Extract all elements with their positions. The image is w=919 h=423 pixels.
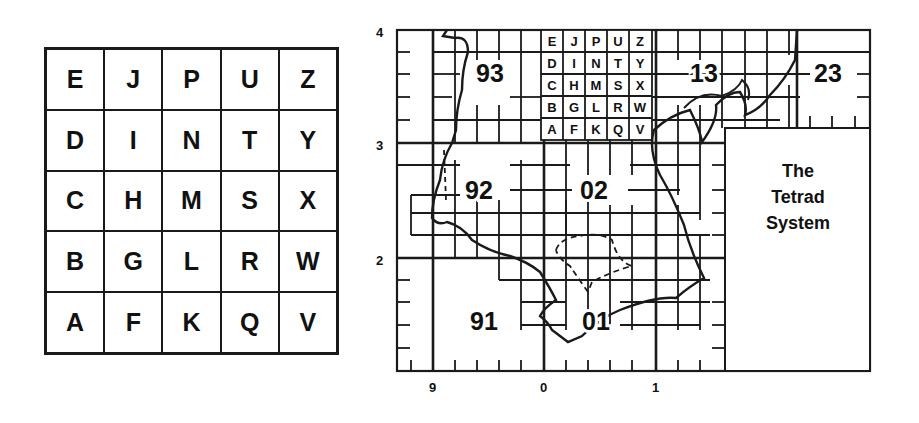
- mini-key-cell: H: [569, 78, 578, 93]
- x-axis-label-9: 9: [429, 380, 436, 395]
- mini-key-cell: G: [569, 100, 579, 115]
- square-label-93: 93: [476, 59, 504, 87]
- mini-key-cell: U: [613, 34, 622, 49]
- inset-title-line: Tetrad: [728, 184, 868, 210]
- mini-key-cell: C: [547, 78, 557, 93]
- mini-key-cell: F: [570, 122, 578, 137]
- mini-key-cell: M: [591, 78, 602, 93]
- mini-key-cell: I: [572, 56, 576, 71]
- mini-key-cell: P: [592, 34, 601, 49]
- y-axis-label-2: 2: [376, 253, 383, 268]
- square-label-92: 92: [465, 176, 493, 204]
- mini-key-cell: B: [547, 100, 556, 115]
- mini-key-cell: J: [570, 34, 577, 49]
- mini-key-cell: T: [614, 56, 622, 71]
- y-axis-label-3: 3: [376, 138, 383, 153]
- square-label-13: 13: [690, 59, 718, 87]
- mini-key-cell: K: [591, 122, 601, 137]
- mini-key-cell: A: [547, 122, 557, 137]
- mini-key-cell: Z: [636, 34, 644, 49]
- square-label-91: 91: [470, 307, 498, 335]
- inset-title-line: The: [728, 158, 868, 184]
- mini-key-cell: V: [636, 122, 645, 137]
- y-axis-label-4: 4: [376, 25, 384, 40]
- square-label-01: 01: [582, 307, 610, 335]
- mini-key-cell: E: [548, 34, 557, 49]
- square-label-02: 02: [580, 176, 608, 204]
- mini-key-cell: S: [614, 78, 623, 93]
- mini-key-cell: D: [547, 56, 556, 71]
- mini-key-cell: Q: [613, 122, 623, 137]
- mini-key-cell: W: [634, 100, 647, 115]
- mini-key-cell: Y: [636, 56, 645, 71]
- inset-title-line: System: [728, 210, 868, 236]
- inset-title: The Tetrad System: [728, 158, 868, 236]
- mini-key-cell: N: [591, 56, 600, 71]
- x-axis-label-1: 1: [652, 380, 659, 395]
- square-label-23: 23: [814, 59, 842, 87]
- dashed-boundary: [556, 235, 632, 292]
- mini-key-cell: X: [636, 78, 645, 93]
- mini-key-cell: R: [613, 100, 623, 115]
- mini-key-cell: L: [592, 100, 600, 115]
- x-axis-label-0: 0: [540, 380, 547, 395]
